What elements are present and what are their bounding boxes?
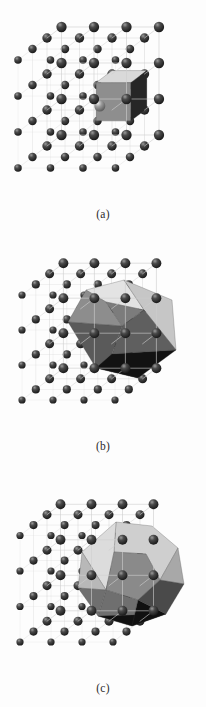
panel-b-caption: (b) xyxy=(0,440,206,452)
panel-a-illustration xyxy=(0,0,206,205)
figure-wigner-seitz-cells: (a) (b) xyxy=(0,0,206,707)
panel-a-caption: (a) xyxy=(0,208,206,220)
panel-c: (c) xyxy=(0,464,206,707)
cell-cube xyxy=(94,71,147,121)
panel-b-illustration xyxy=(0,232,206,437)
panel-a: (a) xyxy=(0,0,206,232)
panel-b: (b) xyxy=(0,232,206,464)
panel-c-caption: (c) xyxy=(0,682,206,694)
panel-c-illustration xyxy=(0,464,206,679)
